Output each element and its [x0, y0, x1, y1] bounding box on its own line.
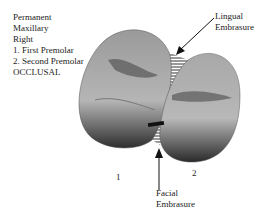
facial-arrow [155, 148, 163, 190]
caption-line: OCCLUSAL [13, 67, 84, 78]
label-line: Embrasure [156, 199, 195, 210]
caption-line: Maxillary [13, 23, 84, 34]
caption-line: 1. First Premolar [13, 45, 84, 56]
facial-embrasure-label: Facial Embrasure [156, 188, 195, 210]
label-line: Embrasure [215, 22, 254, 33]
lingual-arrow [176, 18, 214, 55]
diagram-caption: Permanent Maxillary Right 1. First Premo… [13, 12, 84, 78]
caption-line: Right [13, 34, 84, 45]
first-premolar-tooth [79, 30, 171, 148]
caption-line: Permanent [13, 12, 84, 23]
tooth-number-1: 1 [116, 172, 121, 183]
caption-line: 2. Second Premolar [13, 56, 84, 67]
label-line: Facial [156, 188, 195, 199]
lingual-embrasure-label: Lingual Embrasure [215, 11, 254, 33]
label-line: Lingual [215, 11, 254, 22]
tooth-number-2: 2 [192, 168, 197, 179]
